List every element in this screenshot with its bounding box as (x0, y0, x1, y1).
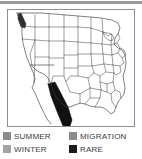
legend-label-rare: RARE (80, 145, 103, 154)
legend-label-summer: SUMMER (14, 132, 51, 141)
legend-row: SUMMER MIGRATION (3, 130, 139, 142)
legend-item-summer[interactable]: SUMMER (3, 130, 51, 142)
us-map-svg (8, 10, 134, 126)
legend-row: WINTER RARE (3, 143, 139, 155)
legend-label-winter: WINTER (14, 145, 47, 154)
map-panel (7, 9, 135, 127)
legend-item-winter[interactable]: WINTER (3, 143, 47, 155)
us-state-boundaries (22, 14, 126, 107)
legend-swatch-winter (3, 145, 11, 153)
map-legend: SUMMER MIGRATION WINTER RARE (3, 130, 139, 157)
top-divider-rule (0, 1, 142, 4)
range-map-figure: SUMMER MIGRATION WINTER RARE (0, 0, 142, 159)
legend-swatch-rare (69, 145, 77, 153)
legend-item-rare[interactable]: RARE (69, 143, 103, 155)
legend-swatch-summer (3, 132, 11, 140)
us-coastline-outline (17, 13, 126, 124)
legend-swatch-migration (69, 132, 77, 140)
legend-label-migration: MIGRATION (80, 132, 127, 141)
legend-item-migration[interactable]: MIGRATION (69, 130, 127, 142)
